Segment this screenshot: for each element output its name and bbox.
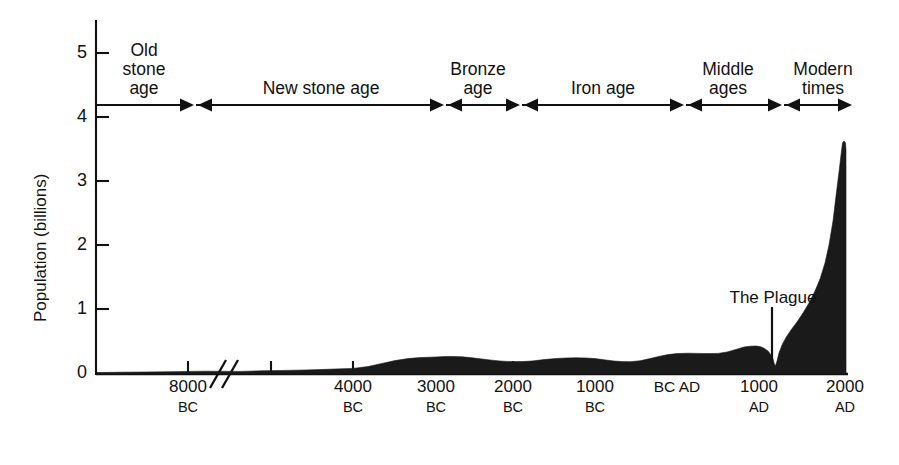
era-arrowhead-left-6 [786, 99, 800, 112]
era-label-iron-age: Iron age [520, 79, 686, 98]
population-history-chart: Population (billions) 5 4 3 2 1 0 Old st… [0, 0, 899, 465]
era-arrowhead-left-5 [688, 99, 702, 112]
era-arrowhead-left-3 [448, 99, 462, 112]
y-tick-label-4: 4 [63, 107, 87, 126]
era-label-modern-times-line1: Modern [776, 60, 870, 79]
era-label-bronze-age-line2: age [434, 79, 522, 98]
x-tick-label-1000ad: 1000 [719, 378, 799, 396]
x-tick-label-8000bc: 8000 [148, 378, 228, 396]
x-tick-sublabel-1000ad: AD [719, 400, 799, 416]
era-label-modern-times-line2: times [776, 79, 870, 98]
population-area-curve [97, 141, 846, 374]
era-arrowhead-right-5 [768, 99, 782, 112]
era-arrowhead-right-1 [180, 99, 194, 112]
x-tick-label-1000bc: 1000 [555, 378, 635, 396]
era-label-old-stone-age-line1: Old [108, 41, 180, 60]
y-tick-label-3: 3 [63, 171, 87, 190]
y-tick-label-0: 0 [63, 363, 87, 382]
era-arrowhead-right-4 [670, 99, 684, 112]
y-tick-label-2: 2 [63, 235, 87, 254]
era-arrowhead-left-2 [198, 99, 212, 112]
era-arrowhead-right-6 [838, 99, 852, 112]
era-label-middle-ages-line1: Middle [684, 60, 772, 79]
y-tick-label-1: 1 [63, 299, 87, 318]
x-tick-sublabel-1000bc: BC [555, 400, 635, 416]
era-arrowhead-right-3 [506, 99, 520, 112]
x-tick-label-2000ad: 2000 [805, 378, 885, 396]
x-tick-label-3000bc: 3000 [396, 378, 476, 396]
annotation-the-plague: The Plague [700, 289, 846, 307]
x-tick-sublabel-4000bc: BC [313, 400, 393, 416]
x-tick-label-2000bc: 2000 [473, 378, 553, 396]
x-tick-sublabel-3000bc: BC [396, 400, 476, 416]
x-tick-label-4000bc: 4000 [313, 378, 393, 396]
x-tick-sublabel-2000bc: BC [473, 400, 553, 416]
x-tick-label-bcad: BC AD [637, 379, 717, 396]
x-tick-sublabel-8000bc: BC [148, 400, 228, 416]
x-tick-sublabel-2000ad: AD [805, 400, 885, 416]
era-label-new-stone-age: New stone age [215, 79, 427, 98]
era-label-bronze-age-line1: Bronze [434, 60, 522, 79]
era-arrowhead-right-2 [430, 99, 444, 112]
era-label-middle-ages-line2: ages [684, 79, 772, 98]
y-tick-label-5: 5 [63, 43, 87, 62]
y-axis-label: Population (billions) [32, 174, 50, 322]
era-timeline [97, 99, 852, 112]
era-arrowhead-left-4 [524, 99, 538, 112]
era-label-old-stone-age-line3: age [108, 79, 180, 98]
era-label-old-stone-age-line2: stone [108, 60, 180, 79]
